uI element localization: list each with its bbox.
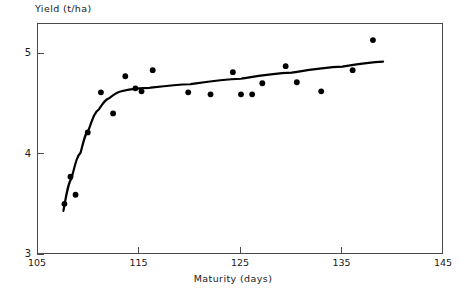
data-point (110, 110, 116, 116)
y-tick-mark (37, 254, 44, 255)
plot-frame (37, 23, 443, 254)
x-tick-label: 105 (17, 257, 57, 268)
data-point (133, 85, 139, 91)
y-axis-title: Yield (t/ha) (35, 3, 92, 14)
data-point (294, 79, 300, 85)
data-point (249, 91, 255, 97)
y-tick-label: 4 (13, 148, 31, 159)
data-point (139, 88, 145, 94)
data-point (98, 89, 104, 95)
data-point (259, 80, 265, 86)
x-axis-title: Maturity (days) (0, 273, 466, 284)
y-tick-mark (37, 153, 44, 154)
data-point (73, 192, 79, 198)
x-tick-mark (240, 247, 241, 254)
y-tick-mark (37, 53, 44, 54)
data-point (208, 91, 214, 97)
data-point (185, 89, 191, 95)
data-point (85, 130, 91, 136)
data-point (238, 91, 244, 97)
data-point (370, 37, 376, 43)
data-point (283, 63, 289, 69)
data-point (350, 67, 356, 73)
x-tick-mark (138, 247, 139, 254)
plot-canvas (38, 24, 444, 255)
chart-figure: Yield (t/ha) 345 105115125135145 Maturit… (0, 0, 466, 295)
data-point (61, 201, 67, 207)
x-tick-label: 135 (322, 257, 362, 268)
x-tick-label: 115 (119, 257, 159, 268)
fit-curve (63, 62, 383, 211)
data-point (318, 88, 324, 94)
x-tick-label: 125 (220, 257, 260, 268)
data-point (230, 69, 236, 75)
y-tick-label: 5 (13, 47, 31, 58)
data-point (122, 73, 128, 79)
data-point (68, 174, 74, 180)
x-tick-mark (341, 247, 342, 254)
data-points (61, 37, 375, 207)
x-tick-label: 145 (423, 257, 463, 268)
fit-curve-path (63, 62, 383, 211)
data-point (150, 67, 156, 73)
